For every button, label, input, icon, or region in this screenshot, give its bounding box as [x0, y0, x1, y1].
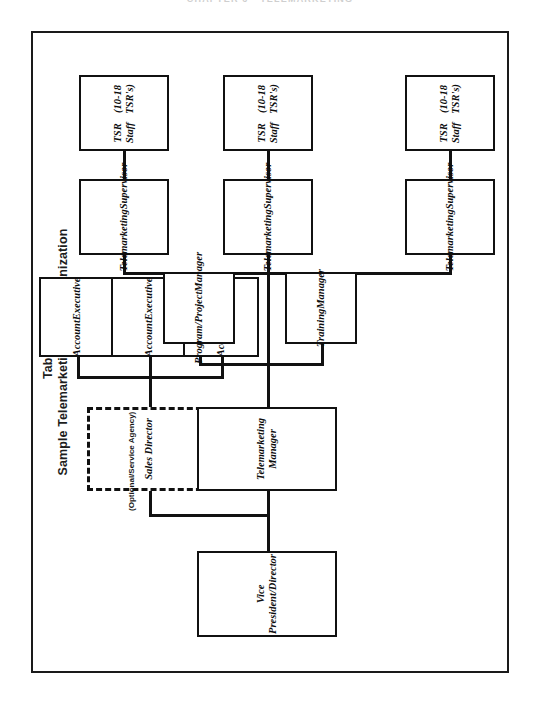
node-label-line-2: (10-18 TSR's) — [256, 79, 281, 119]
node-telemarketing-supervisor-2[interactable]: Telemarketing Supervisor — [223, 179, 313, 255]
node-label-line-2: (10-18 TSR's) — [112, 79, 137, 119]
edge-tm-sup-out — [267, 273, 270, 379]
node-label-line-2: Manager — [315, 269, 328, 309]
bus-tm-down — [267, 364, 321, 367]
node-account-executive-1[interactable]: Account Executive — [39, 277, 115, 357]
org-chart-stage: Table 6-1 Sample Telemarketing Staff Org… — [31, 31, 509, 673]
bus-tm-main — [199, 364, 267, 367]
node-telemarketing-supervisor-1[interactable]: Telemarketing Supervisor — [79, 179, 169, 255]
node-training-manager[interactable]: Training Manager — [285, 272, 357, 344]
node-tsr-staff-1[interactable]: TSR Staff (10-18 TSR's) — [79, 75, 169, 151]
node-label-line-2: Executive — [71, 278, 84, 321]
node-sales-director[interactable]: Sales Director — [87, 407, 211, 491]
node-tsr-staff-3[interactable]: TSR Staff (10-18 TSR's) — [405, 75, 495, 151]
edge-ae1 — [77, 357, 80, 379]
edge-sd-out — [149, 377, 152, 407]
node-vice-president-director[interactable]: Vice President/Director — [197, 551, 337, 637]
edge-ae2 — [149, 357, 152, 379]
node-label-line-1: Training — [315, 309, 328, 347]
node-label-line-2: Supervisor — [118, 163, 131, 210]
node-label-line-2: Supervisor — [444, 163, 457, 210]
node-label-line-2: Manager — [193, 252, 206, 292]
edge-train — [321, 344, 324, 366]
edge-ae3 — [221, 357, 224, 379]
node-label-line-1: TSR Staff — [438, 119, 463, 147]
node-telemarketing-manager[interactable]: Telemarketing Manager — [197, 407, 337, 491]
node-tsr-staff-2[interactable]: TSR Staff (10-18 TSR's) — [223, 75, 313, 151]
node-label-line-1: TSR Staff — [112, 119, 137, 147]
org-chart-canvas: Table 6-1 Sample Telemarketing Staff Org… — [31, 31, 509, 673]
node-label-line-1: Telemarketing — [444, 209, 457, 271]
node-label-line-2: Executive — [143, 278, 156, 321]
node-label-line-1: Account — [71, 320, 84, 356]
node-label-line-2: Supervisor — [262, 163, 275, 210]
edge-trunk-sd — [149, 491, 152, 517]
node-label-line-1: Account — [143, 320, 156, 356]
node-label-line-1: Program/Project — [193, 292, 206, 364]
node-telemarketing-supervisor-3[interactable]: Telemarketing Supervisor — [405, 179, 495, 255]
node-program-project-manager[interactable]: Program/Project Manager — [163, 272, 235, 344]
node-label-line-1: Telemarketing — [262, 209, 275, 271]
node-label: Sales Director — [143, 418, 156, 480]
running-head-text: CHAPTER 6 · TELEMARKETING — [0, 0, 540, 4]
node-label-line-1: Telemarketing — [118, 209, 131, 271]
node-label-line-2: (10-18 TSR's) — [438, 79, 463, 119]
annotation-optional-service-agency: (Optional/Service Agency) — [127, 412, 136, 511]
node-label-line-1: TSR Staff — [256, 119, 281, 147]
edge-tm-out — [267, 377, 270, 407]
node-label: Telemarketing Manager — [255, 411, 280, 487]
node-label: Vice President/Director — [255, 554, 280, 634]
running-head: CHAPTER 6 · TELEMARKETING — [0, 0, 540, 10]
trunk-vp-vertical — [149, 515, 269, 518]
edge-vp-trunk — [267, 515, 270, 551]
edge-trunk-tm — [267, 491, 270, 517]
